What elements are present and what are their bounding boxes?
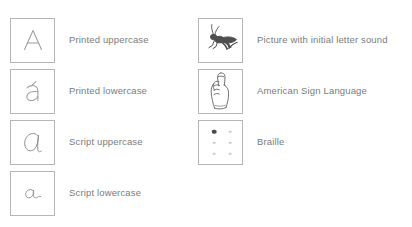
list-item-label: Printed uppercase [69,35,149,45]
list-item-label: Braille [257,137,284,147]
script-lowercase-a-glyph [20,183,46,203]
list-item-printed-lowercase[interactable]: Printed lowercase [10,68,147,114]
printed-uppercase-box [10,18,55,63]
script-lowercase-box [10,171,55,216]
braille-dot-5 [229,141,232,144]
printed-lowercase-box [10,69,55,114]
list-item-script-lowercase[interactable]: Script lowercase [10,170,141,216]
braille-cell-letter-a-icon [199,120,242,165]
braille-dot-4 [229,130,232,133]
list-item-printed-uppercase[interactable]: Printed uppercase [10,17,149,63]
asl-letter-a-hand-icon [204,70,238,112]
list-item-picture-initial-sound[interactable]: Picture with initial letter sound [198,17,388,63]
list-item-american-sign-language[interactable]: American Sign Language [198,68,367,114]
list-item-label: Printed lowercase [69,86,147,96]
script-uppercase-box [10,120,55,165]
list-item-label: Script lowercase [69,188,141,198]
list-item-label: Script uppercase [69,137,143,147]
printed-uppercase-a-glyph [18,24,48,56]
alternative-representation-column: Picture with initial letter sound [188,0,412,227]
list-item-braille[interactable]: Braille [198,119,284,165]
braille-dot-3 [213,152,216,155]
printed-lowercase-a-glyph [19,75,47,107]
picture-initial-sound-box [198,18,243,63]
list-item-label: American Sign Language [257,86,367,96]
braille-dot-2 [213,141,216,144]
braille-box [198,120,243,165]
list-item-label: Picture with initial letter sound [257,35,388,45]
letter-representation-chart: Printed uppercase Printed lowercase [0,0,412,227]
script-uppercase-a-glyph [18,125,48,159]
letter-form-column: Printed uppercase Printed lowercase [0,0,190,227]
grasshopper-insect-picture [200,22,241,58]
list-item-script-uppercase[interactable]: Script uppercase [10,119,143,165]
braille-dot-6 [229,152,232,155]
american-sign-language-box [198,69,243,114]
braille-dot-1 [212,129,217,134]
